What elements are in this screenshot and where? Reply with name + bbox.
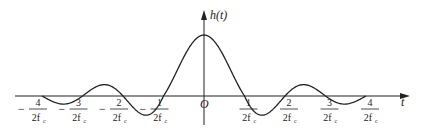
tick-subscript: c [84,118,87,124]
tick-numerator: 2 [287,97,292,108]
tick-numerator: 3 [76,97,81,108]
tick-subscript: c [375,118,378,124]
minus-sign: − [59,102,66,116]
tick-denominator: 2f [323,112,332,123]
tick-numerator: 2 [117,97,122,108]
y-axis-label: h(t) [210,8,227,22]
y-axis-arrow-icon [201,10,207,20]
tick-subscript: c [254,118,257,124]
tick-denominator: 2f [283,112,292,123]
minus-sign: − [18,102,25,116]
tick-subscript: c [294,118,297,124]
tick-numerator: 4 [368,97,373,108]
tick-subscript: c [335,118,338,124]
minus-sign: − [99,102,106,116]
tick-denominator: 2f [153,112,162,123]
tick-numerator: 1 [246,97,251,108]
tick-subscript: c [165,118,168,124]
tick-denominator: 2f [72,112,81,123]
tick-numerator: 1 [157,97,162,108]
impulse-response-diagram: h(t) t O −42fc−32fc−22fc−12fc12fc22fc32f… [0,0,421,131]
tick-subscript: c [124,118,127,124]
tick-denominator: 2f [32,112,41,123]
tick-denominator: 2f [242,112,251,123]
tick-denominator: 2f [364,112,373,123]
tick-numerator: 4 [36,97,41,108]
x-tick-labels: −42fc−32fc−22fc−12fc12fc22fc32fc42fc [18,97,379,124]
tick-denominator: 2f [113,112,122,123]
tick-numerator: 3 [327,97,332,108]
tick-subscript: c [43,118,46,124]
origin-label: O [200,97,209,111]
minus-sign: − [140,102,147,116]
